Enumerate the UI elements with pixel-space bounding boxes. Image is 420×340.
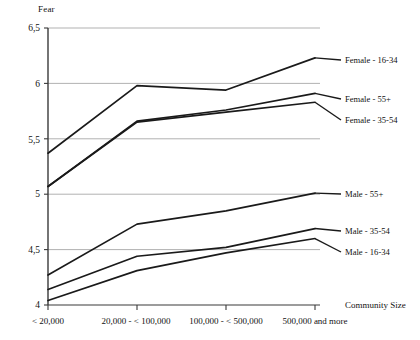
series-line-male-16-34 [48,239,315,301]
plot-canvas [0,0,420,340]
series-line-male-35-54 [48,229,315,290]
legend-leader-female-55 [315,93,341,99]
series-line-male-55 [48,193,315,275]
legend-leader-female-35-54 [315,102,341,120]
legend-leader-female-16-34 [315,58,341,60]
legend-leader-male-55 [315,193,341,194]
legend-leader-male-35-54 [315,229,341,231]
fear-by-community-size-line-chart: Fear 6,5 6 5,5 5 4,5 4 < 20,000 20,000 -… [0,0,420,340]
